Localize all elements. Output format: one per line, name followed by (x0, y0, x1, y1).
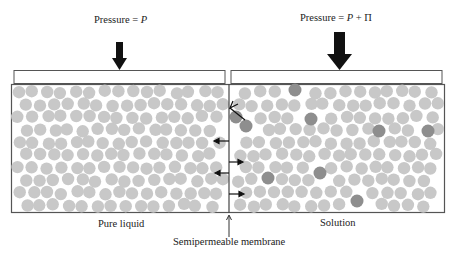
solvent-molecule (260, 198, 272, 210)
solvent-molecule (40, 162, 52, 174)
solvent-molecule (403, 150, 415, 162)
solvent-molecule (245, 173, 257, 185)
solvent-molecule (61, 149, 73, 161)
solvent-molecule (324, 87, 336, 99)
solvent-molecule (141, 86, 153, 98)
solvent-molecule (113, 186, 125, 198)
solvent-molecule (50, 124, 62, 136)
solvent-molecule (204, 125, 216, 137)
solvent-molecule (170, 187, 182, 199)
solvent-molecule (370, 161, 382, 173)
solvent-molecule (26, 110, 38, 122)
solvent-molecule (21, 199, 33, 211)
solvent-molecule (269, 85, 281, 97)
solvent-molecule (276, 148, 288, 160)
solvent-molecule (402, 124, 414, 136)
solvent-molecule (163, 173, 175, 185)
solvent-molecule (403, 99, 415, 111)
solvent-molecule (199, 85, 211, 97)
solvent-molecule (398, 162, 410, 174)
solvent-molecule (75, 200, 87, 212)
solvent-molecule (427, 111, 439, 123)
solvent-molecule (388, 200, 400, 212)
solvent-molecule (127, 161, 139, 173)
solvent-molecule (416, 148, 428, 160)
solvent-molecule (345, 148, 357, 160)
solvent-molecule (369, 86, 381, 98)
left-pressure-arrow-icon (112, 42, 127, 70)
solvent-molecule (90, 99, 102, 111)
solvent-molecule (28, 186, 40, 198)
solvent-molecule (148, 174, 160, 186)
solvent-molecule (127, 85, 139, 97)
solvent-molecule (232, 176, 244, 188)
solvent-molecule (354, 86, 366, 98)
solvent-molecule (196, 110, 208, 122)
solvent-molecule (374, 97, 386, 109)
solvent-molecule (381, 85, 393, 97)
solvent-molecule (184, 162, 196, 174)
solvent-molecule (381, 161, 393, 173)
solvent-molecule (268, 186, 280, 198)
solvent-molecule (254, 85, 266, 97)
solvent-molecule (359, 148, 371, 160)
solvent-molecule (288, 200, 300, 212)
solvent-molecule (160, 148, 172, 160)
solvent-molecule (346, 124, 358, 136)
solvent-molecule (171, 87, 183, 99)
solute-molecule (240, 120, 253, 133)
solvent-molecule (412, 188, 424, 200)
solvent-molecule (41, 186, 53, 198)
solvent-molecule (33, 199, 45, 211)
solvent-molecule (253, 136, 265, 148)
solvent-molecule (182, 112, 194, 124)
solvent-molecule (316, 97, 328, 109)
solvent-molecule (395, 187, 407, 199)
solvent-molecule (104, 200, 116, 212)
solvent-molecule (333, 175, 345, 187)
solvent-molecule (154, 85, 166, 97)
solvent-molecule (20, 148, 32, 160)
solvent-molecule (402, 199, 414, 211)
solvent-molecule (192, 150, 204, 162)
solvent-molecule (168, 111, 180, 123)
solvent-molecule (309, 87, 321, 99)
solvent-molecule (210, 188, 222, 200)
solvent-molecule (34, 123, 46, 135)
solvent-molecule (169, 161, 181, 173)
solvent-molecule (196, 137, 208, 149)
solvent-molecule (170, 137, 182, 149)
solvent-molecule (20, 98, 32, 110)
solvent-molecule (395, 135, 407, 147)
solvent-molecule (204, 100, 216, 112)
solvent-molecule (112, 85, 124, 97)
solvent-molecule (118, 124, 130, 136)
solvent-molecule (233, 98, 245, 110)
solvent-molecule (270, 137, 282, 149)
solvent-molecule (98, 161, 110, 173)
solvent-molecule (11, 161, 23, 173)
solvent-molecule (55, 188, 67, 200)
solvent-molecule (424, 187, 436, 199)
solvent-molecule (239, 87, 251, 99)
solvent-molecule (341, 111, 353, 123)
solvent-molecule (369, 112, 381, 124)
pure-liquid-label: Pure liquid (98, 218, 144, 229)
solvent-molecule (276, 173, 288, 185)
solvent-molecule (389, 122, 401, 134)
solvent-molecule (410, 110, 422, 122)
solvent-molecule (121, 100, 133, 112)
solvent-molecule (289, 174, 301, 186)
solvent-molecule (140, 163, 152, 175)
solvent-molecule (11, 111, 23, 123)
solvent-molecule (54, 87, 66, 99)
solvent-molecule (339, 85, 351, 97)
solvent-molecule (54, 110, 66, 122)
solvent-molecule (247, 150, 259, 162)
osmosis-diagram (0, 0, 470, 260)
solvent-molecule (117, 149, 129, 161)
solvent-molecule (269, 111, 281, 123)
solvent-molecule (417, 200, 429, 212)
solvent-molecule (70, 110, 82, 122)
solvent-molecule (189, 124, 201, 136)
